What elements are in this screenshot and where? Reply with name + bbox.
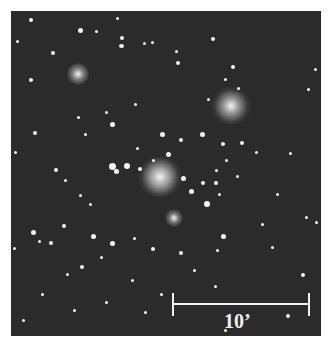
star bbox=[49, 241, 53, 245]
star bbox=[105, 111, 108, 114]
star bbox=[138, 167, 142, 171]
star bbox=[33, 131, 37, 135]
star bbox=[315, 221, 318, 224]
bright-star-glow bbox=[165, 209, 183, 227]
star bbox=[261, 223, 264, 226]
scale-bar-horizontal bbox=[173, 303, 310, 305]
star bbox=[151, 41, 154, 44]
star bbox=[124, 163, 130, 169]
star bbox=[204, 201, 210, 207]
star bbox=[133, 237, 136, 240]
star bbox=[307, 88, 310, 91]
star bbox=[51, 51, 55, 55]
star bbox=[236, 175, 239, 178]
star bbox=[214, 181, 218, 185]
star bbox=[221, 142, 225, 146]
star bbox=[62, 224, 66, 228]
star bbox=[14, 151, 17, 154]
star bbox=[13, 247, 16, 250]
scale-bar-label: 10’ bbox=[224, 310, 251, 333]
star bbox=[181, 176, 186, 181]
star bbox=[224, 78, 227, 81]
star bbox=[105, 301, 108, 304]
star bbox=[214, 285, 217, 288]
star bbox=[100, 256, 103, 259]
star bbox=[305, 216, 308, 219]
star bbox=[200, 132, 205, 137]
bright-star-glow bbox=[211, 87, 251, 125]
star bbox=[225, 159, 228, 162]
star-field-image: 10’ bbox=[11, 11, 321, 336]
star bbox=[286, 314, 290, 318]
star bbox=[16, 40, 19, 43]
star bbox=[80, 265, 84, 269]
star bbox=[216, 249, 219, 252]
star bbox=[189, 189, 194, 194]
star bbox=[136, 147, 139, 150]
star bbox=[120, 36, 124, 40]
star bbox=[116, 17, 119, 20]
star bbox=[193, 269, 196, 272]
star bbox=[152, 159, 155, 162]
star bbox=[179, 138, 183, 142]
scale-bar-left-tick bbox=[172, 293, 174, 316]
star bbox=[255, 151, 258, 154]
star bbox=[289, 152, 292, 155]
star bbox=[110, 241, 115, 246]
star bbox=[215, 169, 218, 172]
star bbox=[143, 42, 146, 45]
star bbox=[77, 116, 80, 119]
star bbox=[201, 181, 205, 185]
star bbox=[22, 319, 25, 322]
star bbox=[276, 193, 279, 196]
star bbox=[119, 44, 124, 48]
star bbox=[38, 240, 41, 243]
star bbox=[79, 194, 82, 197]
star bbox=[237, 87, 240, 90]
star bbox=[175, 50, 178, 53]
star bbox=[160, 132, 165, 137]
star bbox=[66, 273, 69, 276]
star bbox=[179, 251, 183, 255]
star bbox=[31, 230, 36, 235]
star bbox=[131, 279, 134, 282]
star bbox=[29, 78, 33, 82]
star bbox=[240, 141, 244, 145]
star bbox=[271, 246, 274, 249]
star bbox=[95, 30, 98, 33]
star bbox=[207, 98, 210, 101]
star bbox=[29, 18, 33, 22]
star bbox=[211, 37, 215, 41]
star bbox=[314, 68, 317, 71]
star bbox=[64, 179, 67, 182]
star bbox=[221, 234, 226, 239]
bright-star-glow bbox=[67, 63, 89, 85]
star bbox=[110, 122, 115, 127]
star bbox=[160, 293, 163, 296]
star bbox=[166, 152, 171, 157]
star bbox=[231, 65, 235, 69]
star bbox=[89, 203, 92, 206]
star bbox=[134, 103, 137, 106]
star bbox=[218, 193, 221, 196]
star bbox=[176, 61, 180, 65]
bright-star-glow bbox=[137, 157, 183, 197]
star bbox=[144, 311, 147, 314]
star bbox=[84, 133, 87, 136]
star bbox=[73, 309, 76, 312]
star bbox=[114, 169, 119, 174]
star bbox=[301, 273, 305, 277]
star bbox=[54, 168, 58, 172]
star bbox=[41, 293, 44, 296]
star bbox=[151, 247, 155, 251]
star bbox=[78, 28, 83, 33]
star bbox=[91, 234, 96, 239]
scale-bar-right-tick bbox=[308, 293, 310, 316]
